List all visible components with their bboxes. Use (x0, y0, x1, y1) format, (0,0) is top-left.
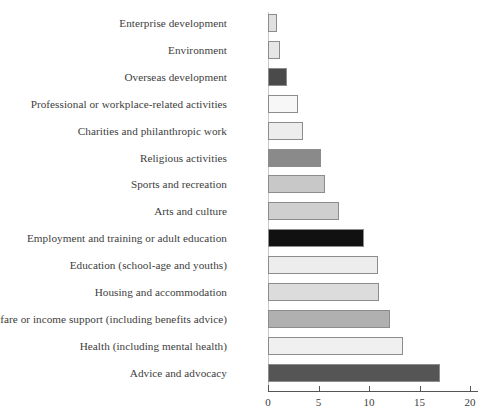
bar-row: Environment (0, 41, 501, 59)
category-label: Arts and culture (0, 205, 233, 218)
bar-row: Education (school-age and youths) (0, 256, 501, 274)
bar (268, 14, 277, 32)
bar-row: Overseas development (0, 68, 501, 86)
category-label: Welfare or income support (including ben… (0, 312, 233, 325)
axis-tick-label: 0 (265, 396, 271, 408)
bar (268, 175, 325, 193)
bar-chart: Enterprise developmentEnvironmentOversea… (0, 0, 501, 419)
bar-row: Religious activities (0, 149, 501, 167)
category-label: Sports and recreation (0, 178, 233, 191)
axis-tick-label: 10 (364, 396, 375, 408)
axis-tick-label: 15 (414, 396, 425, 408)
bar-row: Charities and philanthropic work (0, 122, 501, 140)
category-label: Religious activities (0, 151, 233, 164)
bar-row: Sports and recreation (0, 175, 501, 193)
bar-row: Enterprise development (0, 14, 501, 32)
bar-row: Welfare or income support (including ben… (0, 310, 501, 328)
category-label: Education (school-age and youths) (0, 259, 233, 272)
bar (268, 283, 379, 301)
bar (268, 364, 440, 382)
bar-row: Employment and training or adult educati… (0, 229, 501, 247)
category-label: Professional or workplace-related activi… (0, 97, 233, 110)
bar (268, 149, 321, 167)
bar (268, 122, 303, 140)
bar (268, 41, 280, 59)
axis-tick (268, 386, 269, 392)
category-label: Housing and accommodation (0, 286, 233, 299)
axis-tick (319, 386, 320, 392)
bar (268, 256, 378, 274)
axis-tick (470, 386, 471, 392)
bar (268, 229, 364, 247)
category-label: Environment (0, 43, 233, 56)
plot-area: Enterprise developmentEnvironmentOversea… (0, 0, 501, 419)
axis-tick (420, 386, 421, 392)
bar-row: Health (including mental health) (0, 337, 501, 355)
category-label: Overseas development (0, 70, 233, 83)
category-label: Charities and philanthropic work (0, 124, 233, 137)
bar-row: Arts and culture (0, 202, 501, 220)
category-label: Enterprise development (0, 17, 233, 30)
axis-tick (369, 386, 370, 392)
bar (268, 68, 287, 86)
bar-row: Advice and advocacy (0, 364, 501, 382)
bar (268, 95, 298, 113)
bar (268, 202, 339, 220)
category-label: Health (including mental health) (0, 339, 233, 352)
value-axis-line (268, 391, 478, 392)
axis-tick-label: 5 (316, 396, 322, 408)
bar-row: Professional or workplace-related activi… (0, 95, 501, 113)
axis-tick-label: 20 (465, 396, 476, 408)
bar-row: Housing and accommodation (0, 283, 501, 301)
category-label: Employment and training or adult educati… (0, 232, 233, 245)
bar (268, 310, 390, 328)
bar (268, 337, 403, 355)
category-label: Advice and advocacy (0, 366, 233, 379)
